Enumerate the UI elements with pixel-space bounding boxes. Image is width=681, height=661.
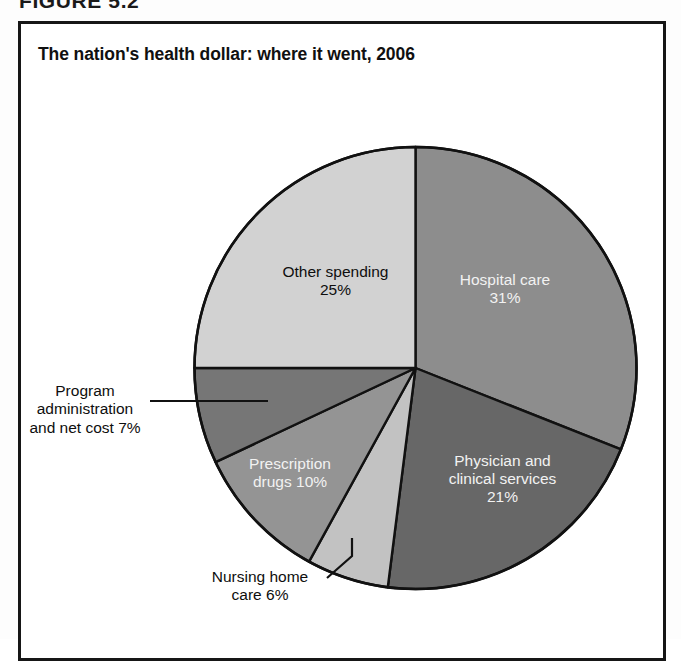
slice-label-physician-value: 21% — [415, 488, 590, 506]
callout-nursing-value: care 6% — [195, 586, 325, 604]
slice-label-hospital-care-name: Hospital care — [430, 271, 580, 289]
slice-label-other-spending-name: Other spending — [253, 263, 418, 281]
slice-label-hospital-care: Hospital care 31% — [430, 271, 580, 307]
callout-program-line1: Program — [22, 382, 148, 400]
figure-number-caption: FIGURE 5.2 — [19, 0, 139, 13]
slice-label-prescription-drugs: Prescription drugs 10% — [215, 455, 365, 491]
slice-label-physician-line2: clinical services — [415, 470, 590, 488]
callout-label-program-administration: Program administration and net cost 7% — [22, 382, 148, 437]
slice-label-physician-line1: Physician and — [415, 452, 590, 470]
slice-label-physician-clinical: Physician and clinical services 21% — [415, 452, 590, 505]
callout-label-nursing-home: Nursing home care 6% — [195, 568, 325, 605]
callout-nursing-line1: Nursing home — [195, 568, 325, 586]
slice-label-prescription-line1: Prescription — [215, 455, 365, 473]
chart-title: The nation's health dollar: where it wen… — [38, 44, 415, 65]
slice-label-other-spending-value: 25% — [253, 281, 418, 299]
slice-label-hospital-care-value: 31% — [430, 289, 580, 307]
callout-program-line3: and net cost 7% — [22, 419, 148, 437]
callout-program-line2: administration — [22, 400, 148, 418]
figure-frame-box — [18, 21, 666, 661]
slice-label-prescription-value: drugs 10% — [215, 473, 365, 491]
slice-label-other-spending: Other spending 25% — [253, 263, 418, 299]
